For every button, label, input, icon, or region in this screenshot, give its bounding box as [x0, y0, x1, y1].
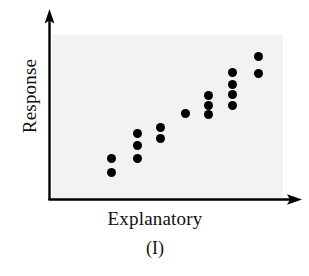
data-point: [133, 129, 142, 138]
data-points-layer: [0, 0, 309, 276]
scatterplot-figure: Response Explanatory (I): [0, 0, 309, 276]
data-point: [204, 91, 213, 100]
data-point: [107, 154, 116, 163]
data-point: [228, 68, 237, 77]
data-point: [228, 101, 237, 110]
data-point: [254, 52, 263, 61]
data-point: [107, 168, 116, 177]
data-point: [204, 110, 213, 119]
x-axis-label: Explanatory: [40, 208, 270, 230]
data-point: [204, 101, 213, 110]
data-point: [254, 69, 263, 78]
data-point: [133, 141, 142, 150]
data-point: [156, 134, 165, 143]
data-point: [133, 154, 142, 163]
data-point: [156, 123, 165, 132]
data-point: [228, 80, 237, 89]
data-point: [181, 109, 190, 118]
figure-caption: (I): [40, 238, 270, 259]
y-axis-label: Response: [14, 0, 46, 196]
data-point: [228, 90, 237, 99]
